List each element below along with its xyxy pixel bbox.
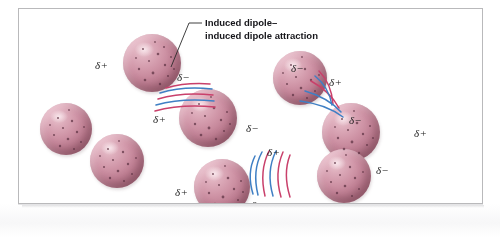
charge-label-delta-plus: δ+ — [414, 127, 427, 139]
callout-leader-line — [171, 23, 202, 67]
charge-label-delta-plus: δ+ — [175, 186, 188, 198]
charge-label-delta-plus: δ+ — [153, 113, 166, 125]
illustration-panel: Induced dipole– induced dipole attractio… — [18, 8, 483, 204]
panel-drop-shadow — [22, 205, 484, 208]
charge-label-delta-minus: δ− — [291, 62, 304, 74]
illustration-canvas: Induced dipole– induced dipole attractio… — [19, 9, 482, 203]
callout-line-2: induced dipole attraction — [205, 30, 318, 43]
callout-line-1: Induced dipole– — [205, 17, 318, 30]
attraction-lines-cluster-a — [155, 84, 215, 111]
charge-label-delta-plus: δ+ — [267, 146, 280, 158]
charge-label-delta-minus: δ− — [349, 114, 362, 126]
charge-label-delta-minus: δ− — [177, 71, 190, 83]
charge-label-delta-plus: δ+ — [329, 76, 342, 88]
charge-label-delta-minus: δ− — [246, 122, 259, 134]
charge-label-delta-minus: δ− — [376, 164, 389, 176]
callout-label: Induced dipole– induced dipole attractio… — [205, 17, 318, 42]
charge-label-delta-plus: δ+ — [95, 59, 108, 71]
charge-label-delta-minus: δ− — [251, 199, 264, 203]
dispersion-forces-figure: Induced dipole– induced dipole attractio… — [0, 0, 500, 237]
